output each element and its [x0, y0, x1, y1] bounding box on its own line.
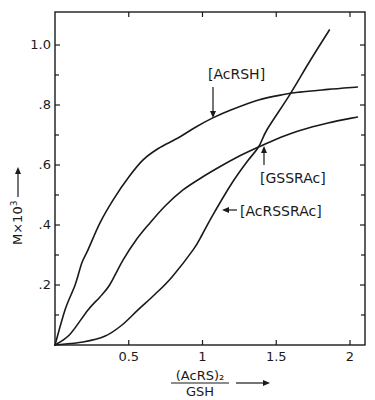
x-tick-label: 0.5 — [118, 349, 139, 364]
y-tick-label: .8 — [39, 97, 51, 112]
x-tick-label: 1 — [198, 349, 206, 364]
y-axis-arrowhead-icon — [15, 167, 21, 174]
label-acrsh: [AcRSH] — [208, 66, 265, 82]
curve-acrssrac — [55, 30, 329, 345]
x-tick-label: 1.5 — [266, 349, 287, 364]
y-axis-label-text: M×103 — [9, 201, 25, 245]
x-axis-label: (AcRS)₂ GSH — [171, 368, 270, 399]
x-axis-label-denominator: GSH — [186, 384, 214, 399]
arrowhead-up-icon — [261, 146, 267, 153]
y-axis-label: M×103 — [9, 167, 25, 245]
y-tick-label: .2 — [39, 277, 51, 292]
y-tick-label: .6 — [39, 157, 51, 172]
curve-gssrac — [55, 117, 357, 345]
x-axis-arrowhead-icon — [263, 380, 270, 386]
chart: 0.511.52.2.4.6.81.0 [AcRSH] [GSSRAc] [Ac… — [0, 0, 375, 400]
x-axis-label-numerator: (AcRS)₂ — [176, 368, 224, 383]
tick-labels: 0.511.52.2.4.6.81.0 — [30, 37, 354, 364]
x-tick-label: 2 — [346, 349, 354, 364]
data-curves — [55, 30, 357, 345]
label-acrssrac: [AcRSSRAc] — [240, 203, 322, 219]
label-gssrac: [GSSRAc] — [260, 170, 326, 186]
y-tick-label: 1.0 — [30, 37, 51, 52]
arrowhead-left-icon — [222, 207, 229, 213]
y-tick-label: .4 — [39, 217, 51, 232]
